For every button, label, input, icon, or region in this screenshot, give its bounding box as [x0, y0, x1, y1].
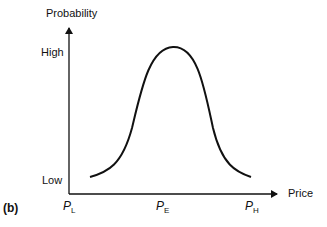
probability-curve	[90, 47, 251, 177]
x-tick-pl: PL	[63, 200, 75, 215]
x-tick-pe-sub: E	[164, 206, 169, 215]
x-tick-pl-sub: L	[71, 206, 75, 215]
x-tick-pe: PE	[156, 200, 169, 215]
y-tick-low: Low	[42, 175, 62, 186]
x-tick-pl-main: P	[63, 199, 71, 213]
y-tick-high: High	[41, 47, 64, 58]
chart-canvas	[0, 0, 327, 227]
x-tick-pe-main: P	[156, 199, 164, 213]
panel-label: (b)	[3, 202, 18, 214]
x-tick-ph-sub: H	[253, 206, 259, 215]
y-axis-title: Probability	[46, 8, 97, 19]
x-tick-ph-main: P	[245, 199, 253, 213]
x-axis-title: Price	[288, 188, 313, 199]
x-tick-ph: PH	[245, 200, 259, 215]
